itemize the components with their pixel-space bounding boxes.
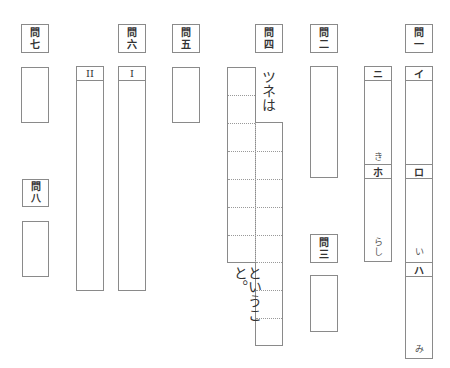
- question-label-number: 三: [319, 249, 329, 261]
- question-label-8: 問 八: [22, 179, 49, 207]
- q4-prefix-text: ツネは: [261, 70, 275, 120]
- question-label-5: 問 五: [172, 24, 200, 53]
- part-header-I: I: [118, 66, 146, 81]
- ha-suffix: み: [406, 344, 432, 354]
- question-label-7: 問 七: [21, 24, 49, 53]
- question-label-number: 八: [31, 193, 41, 205]
- answer-box-q2[interactable]: [310, 66, 338, 178]
- part-header-label: I: [130, 68, 134, 79]
- part-header-label: ロ: [414, 164, 424, 179]
- answer-box-q6-II[interactable]: [76, 80, 104, 291]
- question-label-6: 問 六: [118, 24, 146, 53]
- part-header-i: イ: [405, 66, 433, 81]
- answer-box-q8[interactable]: [22, 221, 49, 277]
- answer-box-q5[interactable]: [172, 67, 200, 123]
- question-label-top: 問: [30, 27, 40, 39]
- grid-line: [228, 95, 255, 96]
- question-label-top: 問: [414, 27, 424, 39]
- question-label-top: 問: [181, 27, 191, 39]
- grid-line: [228, 123, 255, 124]
- part-header-label: ホ: [373, 164, 383, 179]
- answer-box-q7[interactable]: [21, 67, 49, 123]
- question-label-top: 問: [31, 181, 41, 193]
- question-label-number: 六: [127, 39, 137, 51]
- part-header-label: イ: [414, 66, 424, 81]
- answer-box-q3[interactable]: [310, 275, 338, 332]
- question-label-number: 四: [264, 39, 274, 51]
- question-label-number: 五: [181, 39, 191, 51]
- part-header-II: II: [76, 66, 104, 81]
- question-label-2: 問 二: [310, 24, 338, 53]
- ro-suffix: い: [406, 247, 432, 257]
- answer-box-i[interactable]: [405, 80, 433, 165]
- part-header-label: ハ: [414, 262, 424, 277]
- ni-suffix: き: [365, 152, 391, 162]
- part-header-label: II: [86, 68, 94, 79]
- question-label-top: 問: [319, 27, 329, 39]
- question-label-top: 問: [319, 237, 329, 249]
- answer-box-ho[interactable]: ら し: [364, 178, 392, 262]
- part-header-ni: ニ: [364, 66, 392, 81]
- question-label-number: 二: [319, 39, 329, 51]
- question-label-number: 七: [30, 39, 40, 51]
- answer-box-ha[interactable]: み: [405, 276, 433, 359]
- question-label-3: 問 三: [310, 234, 338, 263]
- answer-box-ni[interactable]: き: [364, 80, 392, 165]
- grid-divider: [255, 123, 256, 262]
- question-label-4: 問 四: [255, 24, 283, 53]
- part-header-label: ニ: [373, 66, 383, 81]
- q4-suffix-text: ということ。: [233, 266, 261, 346]
- answer-grid-q4-left[interactable]: [227, 67, 256, 263]
- answer-box-ro[interactable]: い: [405, 178, 433, 263]
- ho-suffix: ら し: [365, 237, 391, 257]
- part-header-ho: ホ: [364, 164, 392, 179]
- part-header-ha: ハ: [405, 262, 433, 277]
- question-label-top: 問: [127, 27, 137, 39]
- part-header-ro: ロ: [405, 164, 433, 179]
- question-label-top: 問: [264, 27, 274, 39]
- question-label-1: 問 一: [405, 24, 433, 53]
- question-label-number: 一: [414, 39, 424, 51]
- answer-box-q6-I[interactable]: [118, 80, 146, 291]
- grid-line: [256, 262, 282, 263]
